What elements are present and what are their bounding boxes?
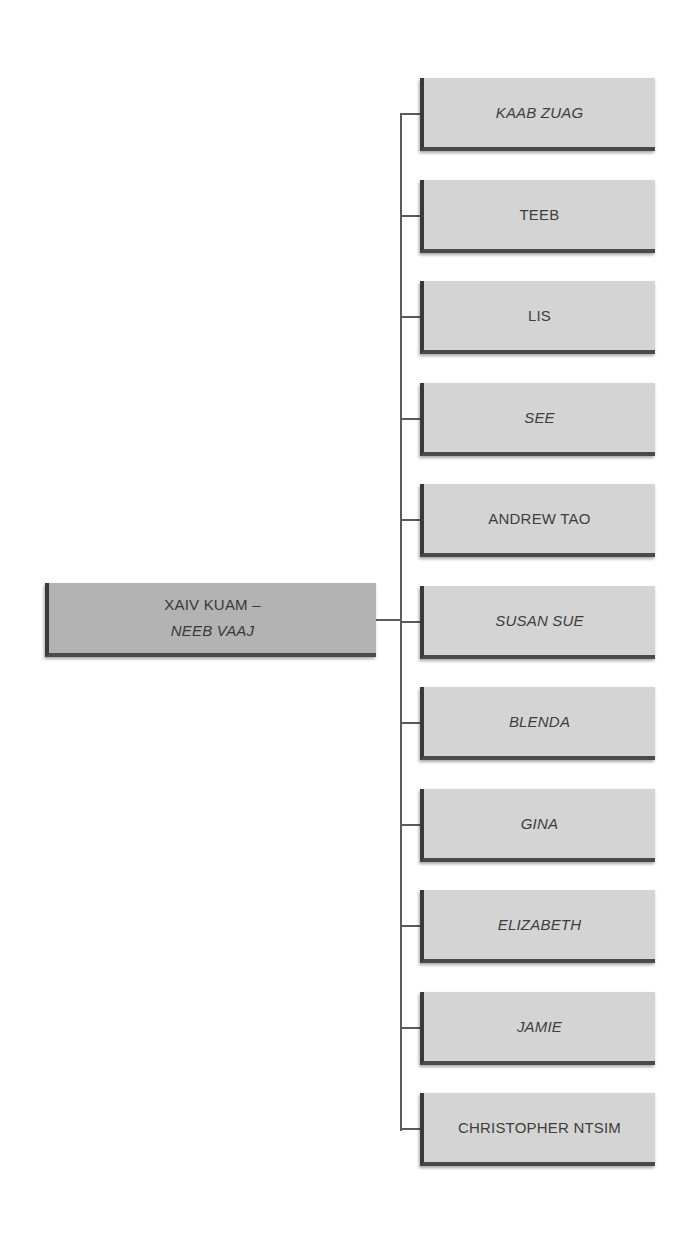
branch-connector-line [401,722,422,724]
root-node-title: XAIV KUAM – [164,592,260,618]
branch-connector-line [401,1128,422,1130]
child-node-label: JAMIE [517,1018,562,1035]
child-node[interactable]: CHRISTOPHER NTSIM [420,1093,655,1166]
child-node-label: KAAB ZUAG [496,104,584,121]
branch-connector-line [401,519,422,521]
child-node-label: SEE [524,409,555,426]
root-node[interactable]: XAIV KUAM – NEEB VAAJ [45,583,376,657]
branch-connector-line [401,824,422,826]
child-node-label: SUSAN SUE [495,612,584,629]
root-node-subtitle: NEEB VAAJ [171,618,255,644]
root-connector-line [375,619,401,621]
branch-connector-line [401,418,422,420]
child-node-label: CHRISTOPHER NTSIM [458,1119,621,1136]
child-node[interactable]: ANDREW TAO [420,484,655,557]
child-node-label: ANDREW TAO [488,510,590,527]
child-node-label: GINA [521,815,558,832]
branch-connector-line [401,1027,422,1029]
branch-connector-line [401,316,422,318]
child-node[interactable]: GINA [420,789,655,862]
child-node-label: TEEB [520,206,560,223]
child-node-label: ELIZABETH [498,916,582,933]
child-node-label: BLENDA [509,713,570,730]
child-node[interactable]: BLENDA [420,687,655,760]
branch-connector-line [401,113,422,115]
child-node[interactable]: JAMIE [420,992,655,1065]
branch-connector-line [401,215,422,217]
child-node[interactable]: SUSAN SUE [420,586,655,659]
child-node[interactable]: TEEB [420,180,655,253]
child-node[interactable]: KAAB ZUAG [420,78,655,151]
child-node[interactable]: ELIZABETH [420,890,655,963]
child-node[interactable]: SEE [420,383,655,456]
branch-connector-line [401,621,422,623]
branch-connector-line [401,925,422,927]
child-node[interactable]: LIS [420,281,655,354]
child-node-label: LIS [528,307,551,324]
